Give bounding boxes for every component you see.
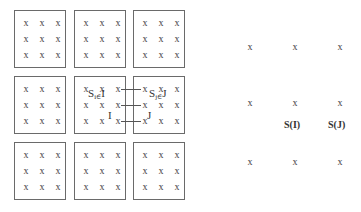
node-label-j: J xyxy=(147,110,151,121)
grid-point: x xyxy=(21,166,31,176)
grid-point: x xyxy=(113,50,123,60)
grid-point: x xyxy=(21,116,31,126)
grid-point: x xyxy=(81,150,91,160)
grid-point: x xyxy=(37,182,47,192)
grid-point: x xyxy=(37,100,47,110)
grid-point: x xyxy=(37,84,47,94)
grid-point: x xyxy=(37,34,47,44)
grid-point: x xyxy=(172,34,182,44)
coarse-point: x xyxy=(244,157,256,167)
grid-point: x xyxy=(172,50,182,60)
grid-point: x xyxy=(140,18,150,28)
grid-point: x xyxy=(21,84,31,94)
grid-point: x xyxy=(113,166,123,176)
grid-point: x xyxy=(53,100,63,110)
grid-point: x xyxy=(81,18,91,28)
grid-point: x xyxy=(172,150,182,160)
connector-line xyxy=(121,121,141,122)
grid-point: x xyxy=(156,150,166,160)
connector-line xyxy=(121,105,141,106)
coarse-label-i: S(I) xyxy=(284,119,300,130)
grid-point: x xyxy=(172,100,182,110)
grid-point: x xyxy=(53,50,63,60)
coarse-point: x xyxy=(334,98,346,108)
grid-point: x xyxy=(172,182,182,192)
grid-point: x xyxy=(97,150,107,160)
grid-point: x xyxy=(140,150,150,160)
grid-point: x xyxy=(156,182,166,192)
grid-point: x xyxy=(21,100,31,110)
coarse-point: x xyxy=(334,157,346,167)
grid-point: x xyxy=(97,166,107,176)
grid-point: x xyxy=(113,34,123,44)
grid-point: x xyxy=(21,182,31,192)
grid-point: x xyxy=(21,150,31,160)
grid-point: x xyxy=(140,166,150,176)
grid-point: x xyxy=(156,166,166,176)
grid-point: x xyxy=(97,50,107,60)
grid-point: x xyxy=(37,150,47,160)
grid-point: x xyxy=(53,166,63,176)
connector-line xyxy=(121,89,141,90)
grid-point: x xyxy=(97,116,107,126)
grid-point: x xyxy=(156,34,166,44)
grid-point: x xyxy=(37,50,47,60)
grid-point: x xyxy=(21,34,31,44)
grid-point: x xyxy=(156,116,166,126)
coarse-point: x xyxy=(244,42,256,52)
grid-point: x xyxy=(156,50,166,60)
grid-point: x xyxy=(37,116,47,126)
grid-point: x xyxy=(81,182,91,192)
grid-point: x xyxy=(140,34,150,44)
grid-point: x xyxy=(97,182,107,192)
grid-point: x xyxy=(156,18,166,28)
node-label-i: I xyxy=(108,110,112,121)
block-label-i: Si∈I xyxy=(88,88,105,103)
grid-point: x xyxy=(81,166,91,176)
coarse-point: x xyxy=(244,98,256,108)
grid-point: x xyxy=(172,84,182,94)
grid-point: x xyxy=(140,50,150,60)
block-label-j: Sj∈J xyxy=(149,88,167,103)
coarse-label-j: S(J) xyxy=(328,119,345,130)
grid-point: x xyxy=(37,18,47,28)
grid-point: x xyxy=(81,116,91,126)
grid-point: x xyxy=(172,18,182,28)
grid-point: x xyxy=(21,50,31,60)
grid-point: x xyxy=(37,166,47,176)
grid-point: x xyxy=(53,84,63,94)
coarse-point: x xyxy=(289,157,301,167)
grid-point: x xyxy=(53,34,63,44)
grid-point: x xyxy=(97,34,107,44)
grid-point: x xyxy=(172,116,182,126)
grid-point: x xyxy=(172,166,182,176)
grid-point: x xyxy=(53,182,63,192)
grid-point: x xyxy=(21,18,31,28)
grid-point: x xyxy=(81,34,91,44)
grid-point: x xyxy=(140,182,150,192)
grid-point: x xyxy=(53,18,63,28)
grid-point: x xyxy=(53,116,63,126)
grid-point: x xyxy=(113,182,123,192)
grid-point: x xyxy=(97,18,107,28)
coarse-point: x xyxy=(334,42,346,52)
coarse-point: x xyxy=(289,98,301,108)
coarse-point: x xyxy=(289,42,301,52)
grid-point: x xyxy=(81,50,91,60)
grid-point: x xyxy=(113,150,123,160)
grid-point: x xyxy=(113,18,123,28)
grid-point: x xyxy=(53,150,63,160)
